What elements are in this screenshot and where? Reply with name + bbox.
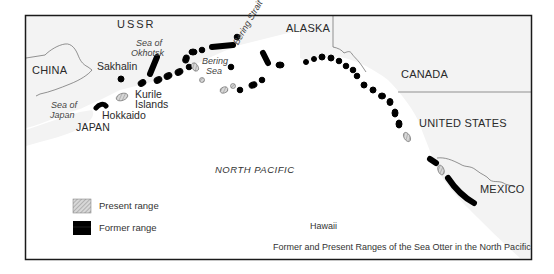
label-ussr: USSR: [117, 19, 156, 30]
label-canada: CANADA: [401, 69, 448, 80]
label-bering-sea-line2: Sea: [206, 67, 222, 76]
legend-swatch-former: [73, 221, 91, 235]
label-sea-of-japan-line1: Sea of: [51, 101, 77, 110]
legend-present-range-label: Present range: [99, 201, 159, 211]
label-sea-of-okhotsk-line2: Okhotsk: [131, 49, 164, 58]
legend-swatch-present: [73, 199, 91, 213]
label-united-states: UNITED STATES: [419, 118, 507, 129]
label-kurile-islands-line2: Islands: [135, 99, 168, 110]
label-alaska: ALASKA: [286, 23, 330, 34]
label-north-pacific: NORTH PACIFIC: [215, 165, 295, 175]
legend-former-range-label: Former range: [99, 223, 157, 233]
map-caption: Former and Present Ranges of the Sea Ott…: [273, 243, 531, 252]
label-sea-of-japan-line2: Japan: [50, 111, 75, 120]
label-bering-sea-line1: Bering: [202, 57, 228, 66]
sea-otter-range-map: [0, 0, 554, 274]
label-japan: JAPAN: [76, 122, 110, 133]
label-china: CHINA: [32, 65, 67, 76]
label-hokkaido: Hokkaido: [102, 110, 146, 121]
label-hawaii: Hawaii: [310, 222, 337, 231]
label-sakhalin: Sakhalin: [97, 61, 137, 72]
label-sea-of-okhotsk-line1: Sea of: [136, 39, 162, 48]
label-mexico: MEXICO: [480, 184, 525, 195]
